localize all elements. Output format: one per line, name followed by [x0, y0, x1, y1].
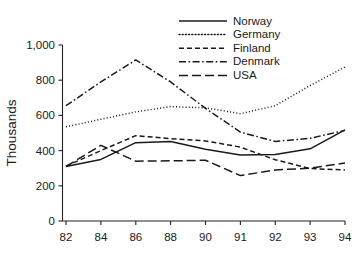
x-axis-ticks — [66, 221, 345, 225]
series-layer — [66, 60, 345, 176]
legend-label-germany: Germany — [233, 28, 281, 40]
y-tick-label-1000: 1,000 — [26, 39, 55, 51]
x-tick-label-92: 92 — [269, 231, 282, 243]
series-line-finland — [66, 136, 345, 170]
x-tick-label-90: 90 — [199, 231, 212, 243]
x-tick-label-88: 88 — [164, 231, 177, 243]
x-tick-label-84: 84 — [95, 231, 108, 243]
y-tick-label-0: 0 — [49, 215, 55, 227]
y-tick-label-600: 600 — [36, 109, 55, 121]
series-line-denmark — [66, 60, 345, 141]
legend-label-usa: USA — [233, 69, 257, 81]
y-tick-label-200: 200 — [36, 180, 55, 192]
legend-label-finland: Finland — [233, 42, 271, 54]
chart-legend: NorwayGermanyFinlandDenmarkUSA — [179, 15, 281, 81]
x-tick-label-91: 91 — [234, 231, 247, 243]
chart-canvas: 0 200 400 600 800 1,000 Thousands 82 84 — [0, 0, 357, 258]
x-axis: 82 84 86 88 90 91 92 93 94 — [60, 221, 352, 243]
x-tick-label-94: 94 — [339, 231, 352, 243]
y-tick-label-800: 800 — [36, 74, 55, 86]
x-tick-label-93: 93 — [304, 231, 317, 243]
y-tick-label-400: 400 — [36, 145, 55, 157]
legend-label-denmark: Denmark — [233, 55, 280, 67]
y-axis-title: Thousands — [4, 99, 19, 166]
y-axis-ticks — [59, 45, 63, 221]
x-tick-label-86: 86 — [129, 231, 142, 243]
line-chart: 0 200 400 600 800 1,000 Thousands 82 84 — [0, 0, 357, 258]
x-tick-label-82: 82 — [60, 231, 73, 243]
y-axis: 0 200 400 600 800 1,000 Thousands — [4, 39, 63, 227]
legend-label-norway: Norway — [233, 15, 272, 27]
